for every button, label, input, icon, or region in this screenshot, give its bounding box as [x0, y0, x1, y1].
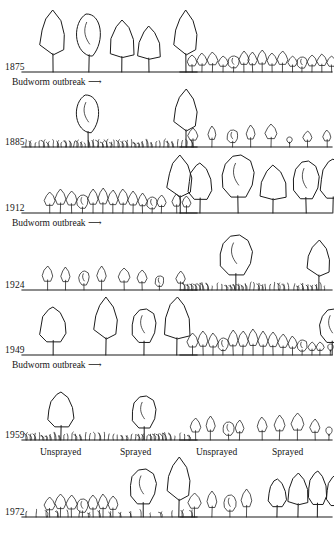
tree-bushy [40, 307, 66, 355]
tree-bushy [268, 479, 286, 517]
tree-blob [320, 309, 334, 355]
tree-blob [224, 495, 236, 517]
panel-left-1972 [22, 429, 197, 519]
panel-left-1949 [22, 267, 197, 357]
forest-succession-figure: 1875Budworm outbreak ⟶18851912Budworm ou… [0, 0, 334, 545]
tree-sapling [207, 491, 217, 517]
tree-spire [94, 297, 118, 355]
tree-blob [132, 309, 156, 355]
tree-sapling [108, 496, 118, 517]
tree-bushy [326, 475, 334, 517]
tree-sapling [55, 494, 66, 517]
panel-right-1949 [180, 267, 332, 357]
tree-bushy [308, 471, 326, 517]
tree-sapling [241, 489, 252, 517]
panel-right-1972 [180, 429, 332, 519]
tree-sapling [44, 497, 55, 517]
tree-blob [130, 469, 156, 517]
tree-conifer [288, 473, 308, 517]
tree-sapling [188, 493, 201, 517]
ground-cover-mixed [26, 509, 193, 517]
